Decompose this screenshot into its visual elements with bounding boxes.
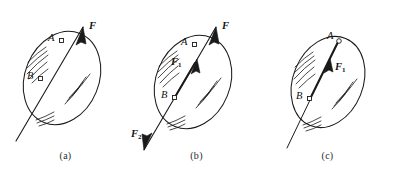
- rigid-body-outline: [10, 20, 115, 137]
- point-marker-B: [308, 97, 312, 101]
- panel-a: A B F (a): [0, 0, 131, 176]
- vector-label-F1-sub: 1: [178, 61, 182, 69]
- vector-label-F1: F1: [335, 62, 346, 74]
- vector-label-F2-sub: 2: [138, 133, 142, 141]
- vector-label-F: F: [89, 21, 96, 32]
- point-label-A: A: [327, 31, 333, 42]
- vector-label-F2: F2: [131, 129, 142, 141]
- force-arrowhead-F2: [142, 133, 152, 150]
- point-marker-B: [39, 77, 43, 81]
- shading-hatch-bottom: [303, 117, 321, 131]
- point-marker-A: [60, 39, 64, 43]
- vector-shaft-F1: [310, 42, 338, 99]
- shading-hatch-upper-left: [294, 52, 315, 88]
- vector-label-F: F: [222, 21, 229, 32]
- rigid-body-outline: [141, 24, 246, 141]
- vector-label-F1-text: F: [335, 61, 342, 72]
- point-label-B: B: [161, 90, 167, 101]
- panel-c: A B F1 (c): [262, 0, 393, 176]
- point-marker-A: [337, 39, 342, 44]
- point-marker-A: [193, 43, 197, 47]
- vector-label-F-text: F: [222, 20, 229, 31]
- point-label-B: B: [296, 91, 302, 102]
- vector-label-F1: F1: [171, 57, 182, 69]
- panel-b-caption: (b): [131, 150, 262, 161]
- vector-label-F1-text: F: [171, 56, 178, 67]
- shading-hatch-right: [196, 78, 221, 108]
- panel-a-caption: (a): [0, 150, 131, 161]
- shading-hatch-bottom: [36, 112, 54, 126]
- shading-hatch-right: [332, 79, 357, 109]
- vector-label-F1-sub: 1: [342, 66, 346, 74]
- point-label-A: A: [181, 37, 187, 48]
- panel-b: A B F F1 F2 (b): [131, 0, 262, 176]
- vector-label-F-text: F: [89, 20, 96, 31]
- panel-c-caption: (c): [262, 150, 393, 161]
- point-label-A: A: [48, 33, 54, 44]
- shading-hatch-bottom: [167, 116, 185, 130]
- force-transmissibility-figure: A B F (a): [0, 0, 393, 176]
- point-label-B: B: [27, 71, 33, 82]
- vector-label-F2-text: F: [131, 128, 138, 139]
- shading-hatch-right: [65, 74, 90, 104]
- rigid-body-outline: [278, 25, 378, 138]
- point-marker-B: [173, 96, 177, 100]
